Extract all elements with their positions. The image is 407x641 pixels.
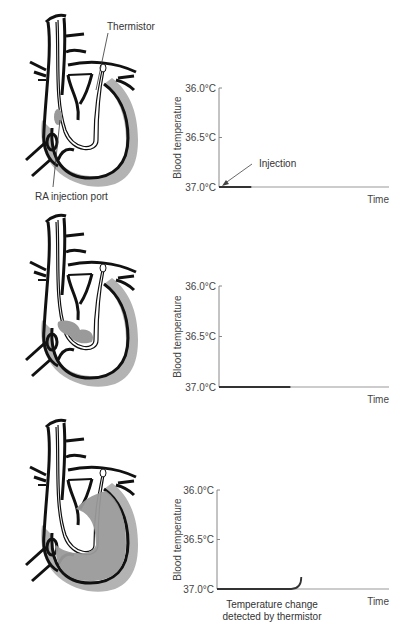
- x-axis-label: Time: [367, 394, 389, 405]
- y-tick-label: 37.0°C: [183, 584, 214, 595]
- y-tick-label: 37.0°C: [185, 182, 216, 193]
- thermodilution-diagram: Thermistor RA injection port 36.0°C36.5°…: [0, 0, 407, 641]
- caption-line: detected by thermistor: [223, 611, 323, 622]
- chart-3: 36.0°C36.5°C37.0°CBlood temperatureTimeT…: [172, 485, 389, 623]
- y-tick-label: 36.0°C: [185, 83, 216, 94]
- caption-line: Temperature change: [226, 599, 318, 610]
- bolus-right-atrium: [54, 109, 62, 125]
- y-axis-label: Blood temperature: [172, 96, 183, 179]
- chart-1: 36.0°C36.5°C37.0°CBlood temperatureTimeI…: [172, 83, 389, 206]
- heart-illustration-3: [26, 420, 138, 591]
- y-tick-label: 36.5°C: [185, 331, 216, 342]
- heart-illustration-1: Thermistor RA injection port: [26, 15, 155, 202]
- y-tick-label: 37.0°C: [185, 382, 216, 393]
- y-tick-label: 36.0°C: [183, 485, 214, 496]
- x-axis-label: Time: [367, 596, 389, 607]
- bolus-right-ventricle: [58, 320, 93, 343]
- temperature-curve: [217, 577, 301, 589]
- temperature-charts: 36.0°C36.5°C37.0°CBlood temperatureTimeI…: [172, 83, 389, 623]
- heart-illustration-2: [26, 215, 138, 386]
- y-axis-label: Blood temperature: [172, 498, 183, 581]
- y-tick-label: 36.5°C: [183, 534, 214, 545]
- chart-2: 36.0°C36.5°C37.0°CBlood temperatureTime: [172, 281, 389, 406]
- injection-label: Injection: [259, 158, 296, 169]
- injection-arrow-line: [224, 164, 252, 184]
- y-axis-label: Blood temperature: [172, 295, 183, 378]
- y-tick-label: 36.0°C: [185, 281, 216, 292]
- x-axis-label: Time: [367, 194, 389, 205]
- ra-injection-port-label: RA injection port: [35, 191, 108, 202]
- y-tick-label: 36.5°C: [185, 132, 216, 143]
- thermistor-label: Thermistor: [107, 21, 155, 32]
